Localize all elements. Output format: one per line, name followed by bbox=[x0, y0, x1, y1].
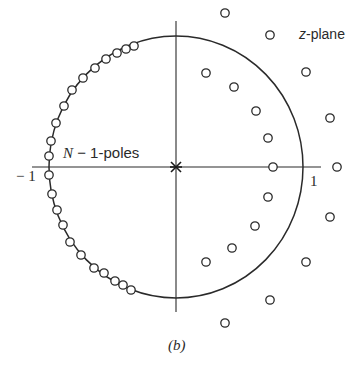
pole-marker-icon bbox=[333, 163, 341, 171]
pole-marker-icon bbox=[266, 296, 274, 304]
pole-marker-icon bbox=[100, 269, 108, 277]
pole-marker-icon bbox=[53, 206, 61, 214]
pole-marker-icon bbox=[59, 221, 67, 229]
pole-marker-icon bbox=[202, 258, 210, 266]
pole-marker-icon bbox=[111, 277, 119, 285]
pole-marker-icon bbox=[79, 74, 87, 82]
pole-marker-icon bbox=[48, 190, 56, 198]
pole-marker-icon bbox=[130, 42, 138, 50]
pole-marker-icon bbox=[66, 238, 74, 246]
pole-marker-icon bbox=[77, 251, 85, 259]
z-plane-pole-diagram: z-plane N − 1-poles − 1 1 (b) bbox=[0, 0, 362, 368]
plane-label-text: -plane bbox=[306, 26, 345, 42]
tick-label-negative-one: − 1 bbox=[16, 168, 36, 184]
pole-marker-icon bbox=[45, 171, 53, 179]
pole-marker-icon bbox=[252, 107, 260, 115]
tick-label-positive-one: 1 bbox=[310, 173, 318, 189]
pole-marker-icon bbox=[302, 68, 310, 76]
poles-outer-right bbox=[221, 9, 341, 327]
pole-marker-icon bbox=[90, 264, 98, 272]
pole-marker-icon bbox=[127, 286, 135, 294]
pole-marker-icon bbox=[264, 134, 272, 142]
pole-marker-icon bbox=[221, 9, 229, 17]
pole-marker-icon bbox=[269, 163, 277, 171]
pole-marker-icon bbox=[47, 137, 55, 145]
poles-count-label: N − 1-poles bbox=[62, 144, 139, 161]
pole-marker-icon bbox=[119, 281, 127, 289]
pole-marker-icon bbox=[251, 222, 259, 230]
pole-marker-icon bbox=[302, 258, 310, 266]
pole-marker-icon bbox=[202, 69, 210, 77]
plane-label: z-plane bbox=[298, 26, 345, 42]
pole-marker-icon bbox=[45, 152, 53, 160]
pole-marker-icon bbox=[230, 83, 238, 91]
pole-marker-icon bbox=[264, 193, 272, 201]
plane-label-variable: z bbox=[298, 26, 306, 42]
pole-marker-icon bbox=[60, 102, 68, 110]
pole-marker-icon bbox=[91, 64, 99, 72]
pole-marker-icon bbox=[266, 31, 274, 39]
pole-marker-icon bbox=[228, 244, 236, 252]
poles-on-circle-left bbox=[45, 42, 138, 294]
pole-marker-icon bbox=[68, 86, 76, 94]
poles-label-text: − 1-poles bbox=[73, 144, 139, 161]
figure-caption: (b) bbox=[168, 337, 186, 354]
pole-marker-icon bbox=[122, 45, 130, 53]
pole-marker-icon bbox=[113, 49, 121, 57]
pole-marker-icon bbox=[221, 319, 229, 327]
pole-marker-icon bbox=[326, 114, 334, 122]
pole-marker-icon bbox=[326, 213, 334, 221]
pole-marker-icon bbox=[102, 55, 110, 63]
pole-marker-icon bbox=[52, 119, 60, 127]
